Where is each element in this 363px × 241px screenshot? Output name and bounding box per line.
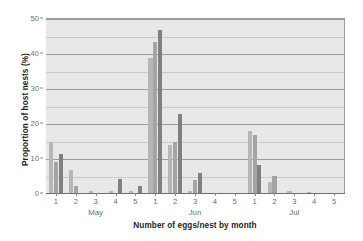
y-tick-mark (40, 88, 43, 89)
y-tick-label: 20 (9, 119, 39, 128)
bar (253, 135, 257, 195)
x-tick-mark (56, 193, 57, 196)
x-tick-mark (155, 193, 156, 196)
x-tick-mark (96, 193, 97, 196)
x-tick-mark (215, 193, 216, 196)
x-tick-label: 4 (304, 197, 324, 206)
x-tick-label: 5 (125, 197, 145, 206)
bar (59, 154, 63, 194)
x-tick-label: 3 (284, 197, 304, 206)
x-tick-label: 1 (245, 197, 265, 206)
y-tick-label: 50 (9, 14, 39, 23)
bar (148, 58, 152, 195)
x-tick-mark (294, 193, 295, 196)
bar (193, 180, 197, 194)
y-tick-label: 30 (9, 84, 39, 93)
y-tick-label: 40 (9, 49, 39, 58)
x-tick-label: 2 (264, 197, 284, 206)
month-group-label: May (66, 208, 126, 217)
x-tick-mark (175, 193, 176, 196)
bar-series-layer (46, 19, 344, 194)
x-tick-mark (274, 193, 275, 196)
x-tick-label: 2 (165, 197, 185, 206)
y-tick-label: 0 (9, 189, 39, 198)
y-tick-mark (40, 123, 43, 124)
x-tick-label: 4 (106, 197, 126, 206)
y-tick-mark (40, 193, 43, 194)
bar (173, 142, 177, 195)
x-tick-mark (255, 193, 256, 196)
x-tick-label: 3 (185, 197, 205, 206)
x-tick-label: 1 (145, 197, 165, 206)
x-tick-label: 3 (86, 197, 106, 206)
month-group-label: Jun (165, 208, 225, 217)
y-tick-mark (40, 158, 43, 159)
bar (248, 131, 252, 194)
plot-area (46, 18, 345, 194)
bar-chart: Proportion of host nests (%) 01020304050… (0, 0, 363, 241)
x-tick-mark (195, 193, 196, 196)
x-tick-mark (314, 193, 315, 196)
x-tick-mark (76, 193, 77, 196)
bar (198, 173, 202, 194)
bar (158, 30, 162, 195)
x-tick-mark (334, 193, 335, 196)
bar (257, 165, 261, 194)
y-tick-label: 10 (9, 154, 39, 163)
x-tick-label: 5 (225, 197, 245, 206)
x-tick-label: 5 (324, 197, 344, 206)
bar (69, 170, 73, 195)
bar (118, 179, 122, 194)
x-tick-mark (116, 193, 117, 196)
x-tick-label: 2 (66, 197, 86, 206)
bar (178, 114, 182, 195)
month-group-label: Jul (264, 208, 324, 217)
x-tick-label: 4 (205, 197, 225, 206)
bar (49, 142, 53, 195)
x-axis-ticks: 123451234512345MayJunJul (46, 193, 344, 223)
x-tick-mark (235, 193, 236, 196)
bar (272, 176, 276, 194)
bar (168, 145, 172, 194)
bar (54, 162, 58, 194)
x-axis-title: Number of eggs/nest by month (46, 221, 344, 230)
y-tick-mark (40, 18, 43, 19)
y-tick-mark (40, 53, 43, 54)
bar (153, 42, 157, 194)
x-tick-mark (135, 193, 136, 196)
y-axis-ticks: 01020304050 (0, 0, 46, 241)
x-tick-label: 1 (46, 197, 66, 206)
